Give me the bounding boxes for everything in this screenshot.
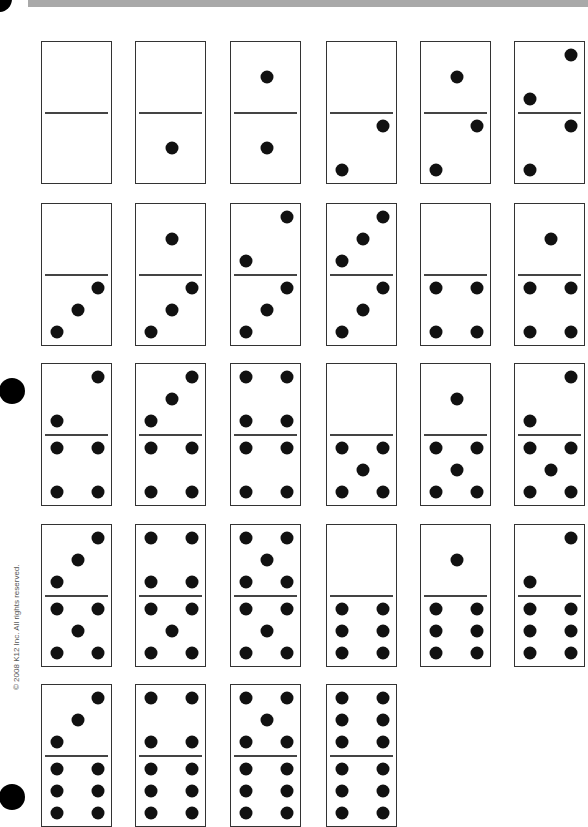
pip-dot-icon <box>336 762 349 775</box>
domino-half-bottom <box>327 435 396 505</box>
pip-dot-icon <box>280 441 293 454</box>
pip-dot-icon <box>376 625 389 638</box>
pip-dot-icon <box>524 441 537 454</box>
pip-dot-icon <box>564 370 577 383</box>
pip-dot-icon <box>376 210 389 223</box>
domino-half-bottom <box>42 596 111 666</box>
pip-dot-icon <box>91 486 104 499</box>
pip-dot-icon <box>240 736 253 749</box>
binder-hole-icon <box>0 378 25 404</box>
pip-dot-icon <box>376 119 389 132</box>
domino-divider <box>45 755 108 757</box>
pip-dot-icon <box>280 370 293 383</box>
pip-dot-icon <box>91 647 104 660</box>
pip-dot-icon <box>145 647 158 660</box>
domino-0-4 <box>420 203 491 346</box>
domino-half-top <box>42 685 111 755</box>
domino-divider <box>45 274 108 276</box>
pip-dot-icon <box>336 602 349 615</box>
pip-dot-icon <box>336 714 349 727</box>
pip-dot-icon <box>450 393 463 406</box>
domino-2-6 <box>514 524 585 667</box>
domino-divider <box>139 434 202 436</box>
pip-dot-icon <box>280 576 293 589</box>
domino-1-3 <box>135 203 206 346</box>
pip-dot-icon <box>185 762 198 775</box>
pip-dot-icon <box>280 486 293 499</box>
pip-dot-icon <box>356 464 369 477</box>
domino-half-bottom <box>327 275 396 345</box>
pip-dot-icon <box>145 486 158 499</box>
pip-dot-icon <box>336 486 349 499</box>
domino-half-top <box>515 525 584 595</box>
pip-dot-icon <box>165 142 178 155</box>
domino-1-2 <box>420 41 491 184</box>
pip-dot-icon <box>280 785 293 798</box>
pip-dot-icon <box>185 576 198 589</box>
domino-0-1 <box>135 41 206 184</box>
domino-half-bottom <box>136 596 205 666</box>
domino-half-bottom <box>136 113 205 183</box>
pip-dot-icon <box>336 785 349 798</box>
domino-half-top <box>231 364 300 434</box>
pip-dot-icon <box>240 531 253 544</box>
pip-dot-icon <box>240 691 253 704</box>
pip-dot-icon <box>430 602 443 615</box>
domino-half-bottom <box>327 113 396 183</box>
pip-dot-icon <box>450 554 463 567</box>
domino-divider <box>139 755 202 757</box>
pip-dot-icon <box>336 441 349 454</box>
pip-dot-icon <box>240 647 253 660</box>
pip-dot-icon <box>336 326 349 339</box>
pip-dot-icon <box>280 807 293 820</box>
domino-5-5 <box>230 524 301 667</box>
domino-half-bottom <box>515 596 584 666</box>
domino-divider <box>139 112 202 114</box>
pip-dot-icon <box>524 415 537 428</box>
pip-dot-icon <box>280 281 293 294</box>
pip-dot-icon <box>280 602 293 615</box>
pip-dot-icon <box>165 233 178 246</box>
domino-0-2 <box>326 41 397 184</box>
domino-half-bottom <box>42 756 111 826</box>
domino-half-top <box>327 525 396 595</box>
pip-dot-icon <box>564 486 577 499</box>
domino-2-3 <box>230 203 301 346</box>
pip-dot-icon <box>145 736 158 749</box>
pip-dot-icon <box>430 281 443 294</box>
pip-dot-icon <box>51 486 64 499</box>
pip-dot-icon <box>145 576 158 589</box>
domino-half-bottom <box>231 756 300 826</box>
pip-dot-icon <box>51 647 64 660</box>
domino-divider <box>234 595 297 597</box>
domino-divider <box>234 755 297 757</box>
domino-divider <box>330 112 393 114</box>
pip-dot-icon <box>280 531 293 544</box>
domino-4-6 <box>135 684 206 827</box>
pip-dot-icon <box>564 602 577 615</box>
pip-dot-icon <box>280 210 293 223</box>
domino-half-bottom <box>42 113 111 183</box>
domino-half-top <box>136 204 205 274</box>
pip-dot-icon <box>280 736 293 749</box>
domino-half-top <box>42 525 111 595</box>
domino-3-4 <box>135 363 206 506</box>
domino-1-1 <box>230 41 301 184</box>
pip-dot-icon <box>524 602 537 615</box>
pip-dot-icon <box>376 714 389 727</box>
pip-dot-icon <box>71 554 84 567</box>
pip-dot-icon <box>91 807 104 820</box>
domino-divider <box>424 274 487 276</box>
pip-dot-icon <box>91 785 104 798</box>
domino-half-top <box>136 685 205 755</box>
pip-dot-icon <box>260 554 273 567</box>
domino-half-bottom <box>515 435 584 505</box>
domino-1-6 <box>420 524 491 667</box>
domino-half-top <box>515 204 584 274</box>
pip-dot-icon <box>145 762 158 775</box>
pip-dot-icon <box>524 93 537 106</box>
domino-half-top <box>327 204 396 274</box>
domino-half-top <box>42 364 111 434</box>
pip-dot-icon <box>280 647 293 660</box>
pip-dot-icon <box>280 762 293 775</box>
